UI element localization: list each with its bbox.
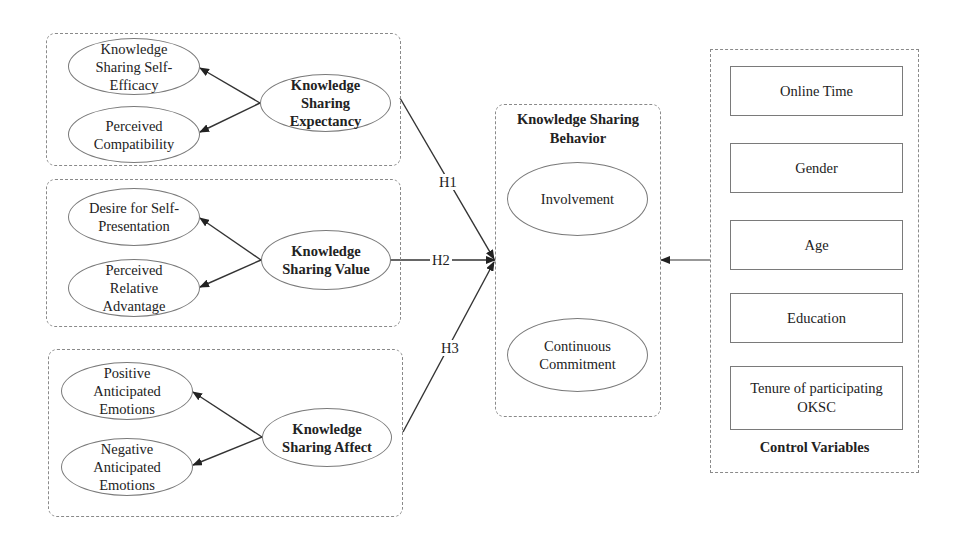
involvement-node: Involvement (507, 162, 648, 236)
hypothesis-h3-label: H3 (439, 340, 461, 356)
desire-for-self-presentation-node: Desire for Self- Presentation (68, 188, 200, 246)
positive-anticipated-emotions-node: Positive Anticipated Emotions (61, 362, 193, 420)
knowledge-sharing-expectancy-node: Knowledge Sharing Expectancy (260, 74, 391, 132)
perceived-compatibility-node: Perceived Compatibility (68, 106, 200, 163)
knowledge-sharing-affect-node: Knowledge Sharing Affect (262, 408, 392, 467)
perceived-relative-advantage-node: Perceived Relative Advantage (68, 259, 200, 317)
control-age: Age (730, 220, 903, 270)
hypothesis-h2-label: H2 (430, 252, 452, 268)
control-variables-title: Control Variables (710, 438, 919, 457)
hypothesis-h1-label: H1 (437, 174, 459, 190)
continuous-commitment-node: Continuous Commitment (507, 318, 648, 392)
control-online-time: Online Time (730, 66, 903, 116)
knowledge-sharing-behavior-title: Knowledge Sharing Behavior (495, 110, 661, 148)
control-education: Education (730, 293, 903, 343)
control-tenure: Tenure of participating OKSC (730, 366, 903, 430)
knowledge-sharing-self-efficacy-node: Knowledge Sharing Self- Efficacy (68, 38, 200, 95)
negative-anticipated-emotions-node: Negative Anticipated Emotions (61, 438, 193, 496)
knowledge-sharing-value-node: Knowledge Sharing Value (261, 230, 391, 290)
control-gender: Gender (730, 143, 903, 193)
